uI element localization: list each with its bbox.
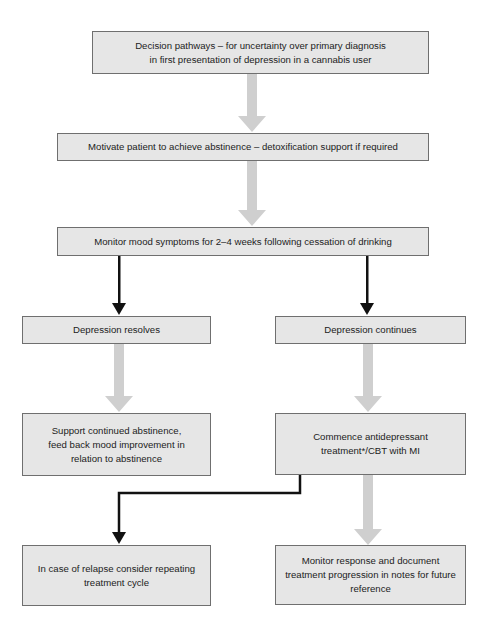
gray-arrow-1 xyxy=(238,74,266,132)
monitor-response-line-2: treatment progression in notes for futur… xyxy=(285,568,456,582)
depression-continues-box: Depression continues xyxy=(275,316,466,344)
support-line-1: Support continued abstinence, xyxy=(48,424,185,438)
commence-line-2: treatment*/CBT with MI xyxy=(313,444,428,458)
depression-continues-label: Depression continues xyxy=(324,323,416,337)
support-line-2: feed back mood improvement in xyxy=(48,438,185,452)
black-arrow-resolves xyxy=(112,256,126,315)
motivate-text: Motivate patient to achieve abstinence –… xyxy=(88,140,398,154)
gray-arrow-bottom-right xyxy=(354,475,382,545)
gray-arrow-left xyxy=(105,344,133,412)
black-elbow-arrow-relapse xyxy=(112,475,300,544)
motivate-box: Motivate patient to achieve abstinence –… xyxy=(57,133,429,161)
relapse-box: In case of relapse consider repeating tr… xyxy=(22,545,211,606)
relapse-line-2: treatment cycle xyxy=(38,576,195,590)
monitor-response-box: Monitor response and document treatment … xyxy=(275,545,466,605)
gray-arrow-2 xyxy=(238,161,266,226)
depression-resolves-box: Depression resolves xyxy=(22,316,211,344)
monitor-mood-text: Monitor mood symptoms for 2–4 weeks foll… xyxy=(94,235,392,249)
depression-resolves-label: Depression resolves xyxy=(73,323,160,337)
black-arrow-continues xyxy=(360,256,374,315)
title-box: Decision pathways – for uncertainty over… xyxy=(92,31,429,74)
support-abstinence-box: Support continued abstinence, feed back … xyxy=(22,413,211,476)
relapse-line-1: In case of relapse consider repeating xyxy=(38,562,195,576)
commence-line-1: Commence antidepressant xyxy=(313,430,428,444)
gray-arrow-right xyxy=(354,344,382,412)
title-line-2: in first presentation of depression in a… xyxy=(135,53,386,67)
support-line-3: relation to abstinence xyxy=(48,452,185,466)
monitor-response-line-3: reference xyxy=(285,582,456,596)
commence-treatment-box: Commence antidepressant treatment*/CBT w… xyxy=(275,413,466,475)
title-line-1: Decision pathways – for uncertainty over… xyxy=(135,39,386,53)
monitor-response-line-1: Monitor response and document xyxy=(285,554,456,568)
monitor-mood-box: Monitor mood symptoms for 2–4 weeks foll… xyxy=(57,227,429,256)
